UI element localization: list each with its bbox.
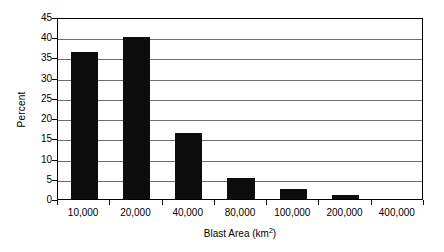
x-axis-tick-mark <box>266 200 267 205</box>
bar <box>175 133 202 199</box>
x-axis-tick-mark <box>162 200 163 205</box>
x-axis-title-close: ) <box>273 228 276 239</box>
bar <box>71 52 98 199</box>
y-axis-tick-label: 35 <box>41 53 52 63</box>
x-axis-tick-mark <box>371 200 372 205</box>
x-axis-tick-label: 40,000 <box>172 207 203 219</box>
x-axis-tick-label: 80,000 <box>225 207 256 219</box>
y-axis-tick-labels: 051015202530354045 <box>30 18 52 200</box>
x-axis-tick-mark <box>109 200 110 205</box>
bars-layer <box>58 19 422 199</box>
x-axis-tick-mark <box>57 200 58 205</box>
y-axis-tick-label: 20 <box>41 114 52 124</box>
bar <box>227 178 254 199</box>
x-axis-tick-mark <box>318 200 319 205</box>
y-axis-tick-label: 25 <box>41 94 52 104</box>
x-axis-tick-marks <box>57 200 423 206</box>
y-axis-tick-label: 30 <box>41 74 52 84</box>
y-axis-tick-label: 40 <box>41 33 52 43</box>
bar <box>332 195 359 199</box>
x-axis-tick-label: 400,000 <box>379 207 415 219</box>
x-axis-tick-labels: 10,00020,00040,00080,000100,000200,00040… <box>57 207 423 221</box>
bar <box>280 189 307 199</box>
bar-chart-figure: Percent 051015202530354045 10,00020,0004… <box>0 0 444 252</box>
y-axis-tick-label: 45 <box>41 13 52 23</box>
y-axis-title: Percent <box>14 0 30 218</box>
x-axis-tick-label: 200,000 <box>326 207 362 219</box>
y-axis-title-label: Percent <box>17 91 28 127</box>
x-axis-tick-label: 100,000 <box>274 207 310 219</box>
x-axis-tick-label: 20,000 <box>120 207 151 219</box>
x-axis-tick-label: 10,000 <box>68 207 99 219</box>
bar <box>123 37 150 199</box>
y-axis-tick-label: 10 <box>41 155 52 165</box>
plot-area <box>57 18 423 200</box>
x-axis-tick-mark <box>214 200 215 205</box>
x-axis-tick-mark <box>423 200 424 205</box>
y-axis-tick-label: 15 <box>41 134 52 144</box>
x-axis-title-base: Blast Area (km <box>204 228 269 239</box>
x-axis-title: Blast Area (km2) <box>57 228 423 239</box>
